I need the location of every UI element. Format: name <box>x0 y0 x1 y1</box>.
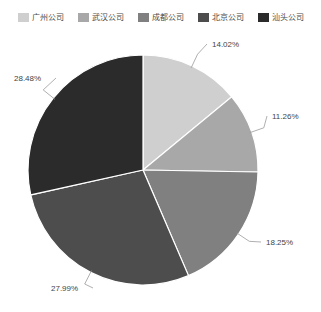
slice-percent-label: 28.48% <box>14 74 41 83</box>
pie-chart-figure: 广州公司 武汉公司 成都公司 北京公司 汕头公司 14.02% 11.26% 1… <box>0 0 321 312</box>
leader-line <box>237 233 261 242</box>
leader-line <box>250 116 267 133</box>
slice-percent-label: 18.25% <box>266 238 293 247</box>
pie-slice[interactable] <box>28 55 143 195</box>
slice-percent-label: 11.26% <box>272 112 299 121</box>
slice-percent-label: 14.02% <box>212 40 239 49</box>
leader-line <box>191 44 207 68</box>
slice-percent-label: 27.99% <box>51 284 78 293</box>
pie-slice-group <box>28 55 258 285</box>
pie-svg: 14.02% 11.26% 18.25% 27.99% 28.48% <box>0 0 321 312</box>
leader-line <box>43 78 56 99</box>
